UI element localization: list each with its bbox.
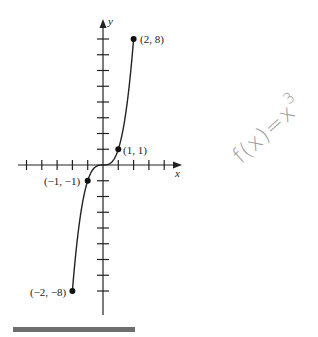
x-axis (18, 160, 176, 170)
data-point (69, 288, 75, 294)
data-point (85, 178, 91, 184)
y-axis-label: y (107, 15, 113, 27)
bottom-divider-bar (13, 327, 135, 332)
x-axis-label: x (174, 167, 180, 179)
y-axis (97, 26, 109, 315)
point-label-neg1-neg1: (−1, −1) (44, 175, 81, 188)
point-label-1-1: (1, 1) (123, 144, 147, 157)
point-label-2-8: (2, 8) (140, 33, 164, 46)
point-label-neg2-neg8: (−2, −8) (30, 286, 67, 299)
y-axis-arrow-icon (100, 19, 107, 28)
cubic-function-graph: x y (2, 8) (1, 1) (−1, −1) (−2, −8) (0, 0, 318, 337)
data-point (131, 36, 137, 42)
data-point (115, 146, 121, 152)
